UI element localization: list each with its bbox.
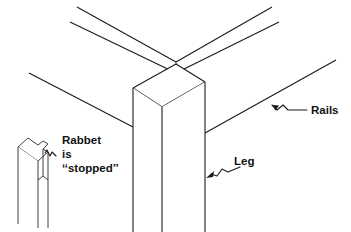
leader-rails (272, 105, 307, 111)
rail-right-far-edge (176, 7, 272, 62)
rail-left-far-edge (77, 7, 176, 62)
leg-post (133, 64, 205, 232)
rail-left-lower (29, 73, 133, 127)
stopped-rabbet-detail (18, 138, 48, 228)
technical-illustration: Rabbet is ‘‘stopped’’ Rails Leg (0, 0, 351, 232)
rail-right-near-edge (176, 22, 279, 73)
rail-right-lower (205, 60, 336, 133)
leader-leg-arrowhead (206, 171, 214, 178)
rail-left-lower-edge (29, 73, 133, 127)
label-leg: Leg (234, 155, 254, 167)
rail-left-top-face (70, 7, 175, 73)
detail-rabbet-stop-shoulder (43, 176, 48, 180)
label-rabbet-line2: is (62, 148, 72, 160)
label-rabbet-line1: Rabbet (62, 134, 101, 146)
rail-right-lower-edge (205, 60, 336, 133)
label-rabbet-line3: ‘‘stopped’’ (62, 162, 119, 174)
illustration-page: Rabbet is ‘‘stopped’’ Rails Leg (0, 0, 351, 232)
rail-left (70, 7, 176, 73)
rail-right (176, 7, 279, 73)
label-rails: Rails (311, 104, 339, 116)
rail-left-near-edge (70, 22, 176, 73)
leg-face-left (133, 88, 162, 232)
rail-right-top-face (176, 7, 279, 73)
leader-leg-squiggle (211, 167, 240, 176)
leg-face-right (162, 82, 205, 232)
detail-rabbet-stop-ramp (38, 176, 43, 180)
leader-leg (206, 167, 240, 178)
